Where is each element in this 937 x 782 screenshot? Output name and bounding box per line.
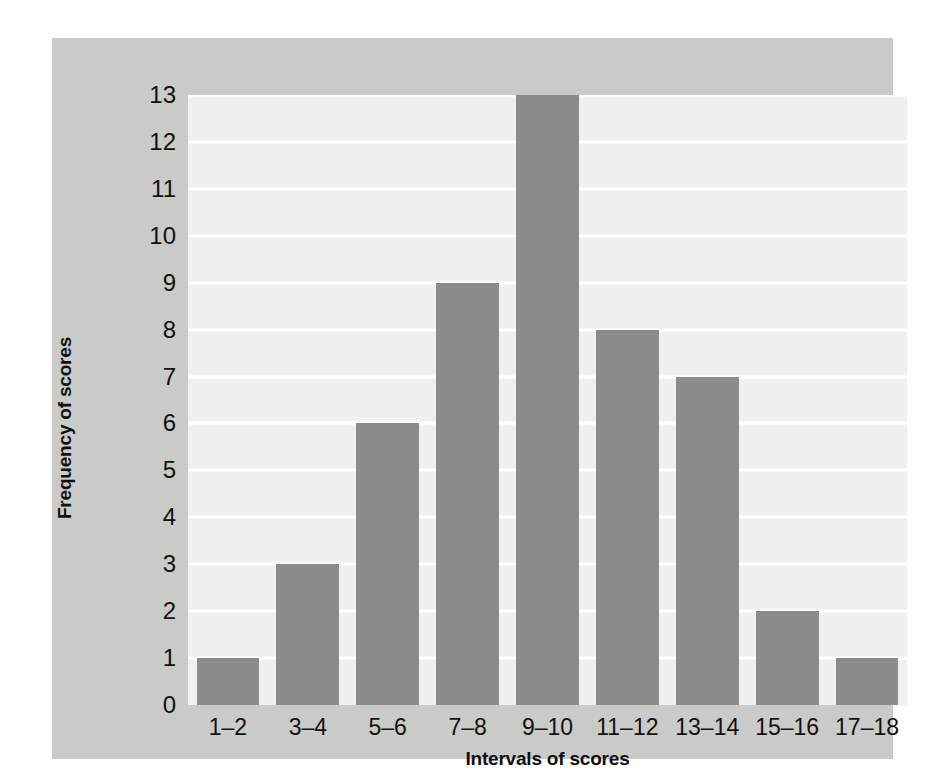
- x-axis-tick-label: 1–2: [209, 710, 247, 744]
- bar: [436, 283, 499, 705]
- y-axis-tick-label: 8: [128, 318, 176, 342]
- bar: [596, 330, 659, 705]
- bar: [197, 658, 260, 705]
- x-axis-tick-label: 11–12: [596, 710, 658, 744]
- chart-figure-panel: Frequency of scores 131211109876543210 1…: [52, 38, 893, 759]
- x-axis-tick-label: 3–4: [289, 710, 327, 744]
- y-axis-tick-label: 0: [128, 693, 176, 717]
- y-axis-tick-label: 5: [128, 458, 176, 482]
- bar: [756, 611, 819, 705]
- y-axis-tick-label: 6: [128, 411, 176, 435]
- y-axis-tick-labels: 131211109876543210: [128, 95, 176, 705]
- y-axis-tick-label: 12: [128, 130, 176, 154]
- y-axis-tick-label: 7: [128, 365, 176, 389]
- y-axis-tick-label: 13: [128, 83, 176, 107]
- y-axis-tick-label: 1: [128, 646, 176, 670]
- y-axis-title: Frequency of scores: [52, 288, 78, 568]
- x-axis-title: Intervals of scores: [188, 744, 907, 774]
- x-axis-tick-label: 9–10: [522, 710, 573, 744]
- x-axis-tick-label: 17–18: [835, 710, 899, 744]
- y-axis-tick-label: 10: [128, 224, 176, 248]
- x-axis-tick-label: 13–14: [675, 710, 739, 744]
- x-axis-tick-label: 7–8: [448, 710, 486, 744]
- y-axis-tick-label: 2: [128, 599, 176, 623]
- y-axis-tick-label: 9: [128, 271, 176, 295]
- bar-series: [188, 95, 907, 705]
- x-axis-tick-label: 15–16: [755, 710, 819, 744]
- bar: [356, 423, 419, 705]
- y-axis-tick-label: 4: [128, 505, 176, 529]
- bar: [276, 564, 339, 705]
- bar: [676, 377, 739, 705]
- y-axis-tick-label: 11: [128, 177, 176, 201]
- y-axis-tick-label: 3: [128, 552, 176, 576]
- x-axis-tick-label: 5–6: [369, 710, 407, 744]
- x-axis-tick-labels: 1–23–45–67–89–1011–1213–1415–1617–18: [188, 710, 907, 744]
- plot-area: [188, 95, 907, 705]
- bar: [516, 95, 579, 705]
- bar: [836, 658, 899, 705]
